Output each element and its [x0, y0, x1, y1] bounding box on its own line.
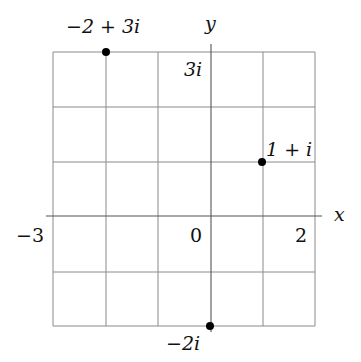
tick-label-x-min: −3 [16, 224, 44, 246]
tick-label-origin: 0 [190, 224, 202, 246]
point-label-neg-2i: −2i [166, 332, 200, 354]
y-axis-label: y [204, 12, 216, 34]
grid [53, 52, 315, 326]
point-label-neg2-plus-3i: −2 + 3i [66, 15, 140, 37]
complex-plane-diagram: x y −3 0 2 3i −2 + 3i 1 + i −2i [0, 0, 361, 362]
point-neg2-plus-3i [102, 48, 110, 56]
tick-label-x-max: 2 [295, 224, 307, 246]
tick-label-y-max: 3i [184, 58, 202, 80]
point-1-plus-i [258, 158, 266, 166]
point-label-1-plus-i: 1 + i [266, 138, 312, 160]
x-axis-label: x [334, 203, 345, 225]
point-neg-2i [206, 322, 214, 330]
